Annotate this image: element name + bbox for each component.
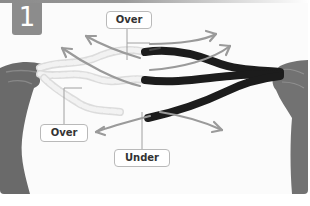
label-bottom-over: Over xyxy=(40,124,88,142)
label-top-over: Over xyxy=(106,11,152,29)
label-bottom-under: Under xyxy=(114,149,170,167)
step-number-badge: 1 xyxy=(12,0,42,35)
braiding-diagram: 1 Over Over Under xyxy=(0,0,310,206)
diagram-panel: 1 Over Over Under xyxy=(0,0,308,194)
left-hand-icon xyxy=(0,62,44,194)
arrow-down-right-icon xyxy=(160,112,222,130)
dark-ropes xyxy=(145,48,280,118)
light-ropes xyxy=(40,50,145,112)
arrow-up-right-icon xyxy=(150,34,216,44)
top-border xyxy=(0,0,310,3)
